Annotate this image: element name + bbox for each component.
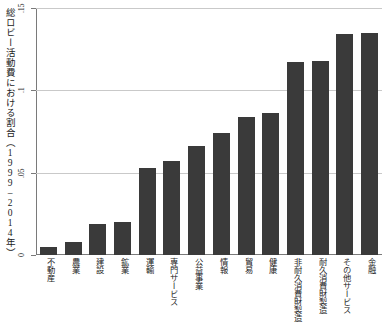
x-axis-labels: 不動産農業建設鉱業運輸専門サービス公益事業情報貿易健康非耐久消費財製造耐久消費財… [36,258,382,330]
bar-item[interactable] [262,8,279,255]
bar[interactable] [287,62,304,255]
bar-item[interactable] [65,8,82,255]
bar[interactable] [89,224,106,255]
bar-item[interactable] [336,8,353,255]
x-axis-label: その他サービス [339,258,350,314]
x-axis-label: 金融 [364,258,375,274]
x-axis-label: 情報 [216,258,227,274]
bar[interactable] [213,133,230,255]
x-axis-label: 建設 [92,258,103,274]
bar[interactable] [139,168,156,255]
bar-item[interactable] [188,8,205,255]
bar[interactable] [65,242,82,255]
bar-item[interactable] [114,8,131,255]
lobbying-share-bar-chart: 総ロビー活動費における割合（1999–2014年） 0.05.1.15 不動産農… [0,0,384,331]
y-tick-label: .15 [17,0,31,18]
y-tick-label: .05 [17,163,31,183]
x-axis-label: 運輸 [142,258,153,274]
bar-item[interactable] [139,8,156,255]
bar[interactable] [238,117,255,255]
x-axis-label: 農業 [68,258,79,274]
bar-series [36,8,382,255]
bar-item[interactable] [213,8,230,255]
bar[interactable] [40,247,57,255]
y-tick-mark [31,255,36,256]
bar-item[interactable] [361,8,378,255]
bar-item[interactable] [89,8,106,255]
bar[interactable] [188,146,205,255]
x-axis-label: 専門サービス [166,258,177,306]
bar[interactable] [361,33,378,255]
bar[interactable] [114,222,131,255]
bar-item[interactable] [238,8,255,255]
y-tick-label: 0 [17,245,31,265]
x-axis-label: 非耐久消費財製造 [290,258,301,322]
bar[interactable] [262,113,279,255]
bar-item[interactable] [40,8,57,255]
bar[interactable] [312,61,329,255]
bar[interactable] [336,34,353,255]
bar-item[interactable] [287,8,304,255]
y-axis-title: 総ロビー活動費における割合（1999–2014年） [1,8,17,288]
bar-item[interactable] [163,8,180,255]
bar[interactable] [163,161,180,255]
x-axis-label: 耐久消費財製造 [315,258,326,314]
x-axis-label: 健康 [265,258,276,274]
x-axis-label: 貿易 [241,258,252,274]
x-axis-label: 不動産 [43,258,54,282]
x-axis-label: 鉱業 [117,258,128,274]
bar-item[interactable] [312,8,329,255]
x-axis-label: 公益事業 [191,258,202,290]
y-tick-label: .1 [17,80,31,100]
